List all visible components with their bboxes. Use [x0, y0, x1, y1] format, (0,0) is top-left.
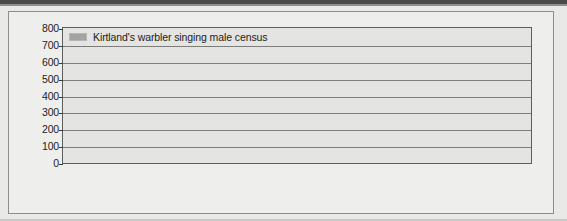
x-axis	[62, 165, 532, 215]
y-axis-tick-label: 100	[42, 141, 59, 151]
page-top-rule-2	[0, 4, 567, 6]
y-axis-tick-label: 300	[42, 107, 59, 117]
y-axis-tick-mark	[59, 80, 63, 81]
bar-series	[63, 28, 531, 163]
y-axis-tick-mark	[59, 147, 63, 148]
gridline	[63, 97, 531, 98]
y-axis: 8007006005004003002001000	[23, 27, 59, 164]
y-axis-tick-mark	[59, 97, 63, 98]
y-axis-tick-mark	[59, 29, 63, 30]
gridline	[63, 130, 531, 131]
gridline	[63, 46, 531, 47]
gridline	[63, 80, 531, 81]
gridline	[63, 113, 531, 114]
legend-label: Kirtland's warbler singing male census	[93, 31, 267, 43]
y-axis-tick-label: 200	[42, 124, 59, 134]
gridline	[63, 147, 531, 148]
y-axis-tick-label: 500	[42, 74, 59, 84]
bar-chart: 8007006005004003002001000 Kirtland's war…	[9, 12, 555, 215]
figure-frame: 8007006005004003002001000 Kirtland's war…	[8, 11, 554, 214]
y-axis-tick-mark	[59, 113, 63, 114]
y-axis-tick-mark	[59, 46, 63, 47]
page-bottom-rule	[0, 219, 567, 221]
y-axis-tick-mark	[59, 63, 63, 64]
y-axis-tick-label: 600	[42, 57, 59, 67]
y-axis-tick-label: 700	[42, 40, 59, 50]
y-axis-tick-mark	[59, 130, 63, 131]
gridline	[63, 63, 531, 64]
legend-color-swatch	[69, 33, 87, 41]
y-axis-tick-label: 800	[42, 23, 59, 33]
chart-legend: Kirtland's warbler singing male census	[69, 31, 267, 43]
plot-area	[62, 27, 532, 164]
y-axis-tick-label: 0	[53, 158, 59, 168]
y-axis-tick-label: 400	[42, 91, 59, 101]
